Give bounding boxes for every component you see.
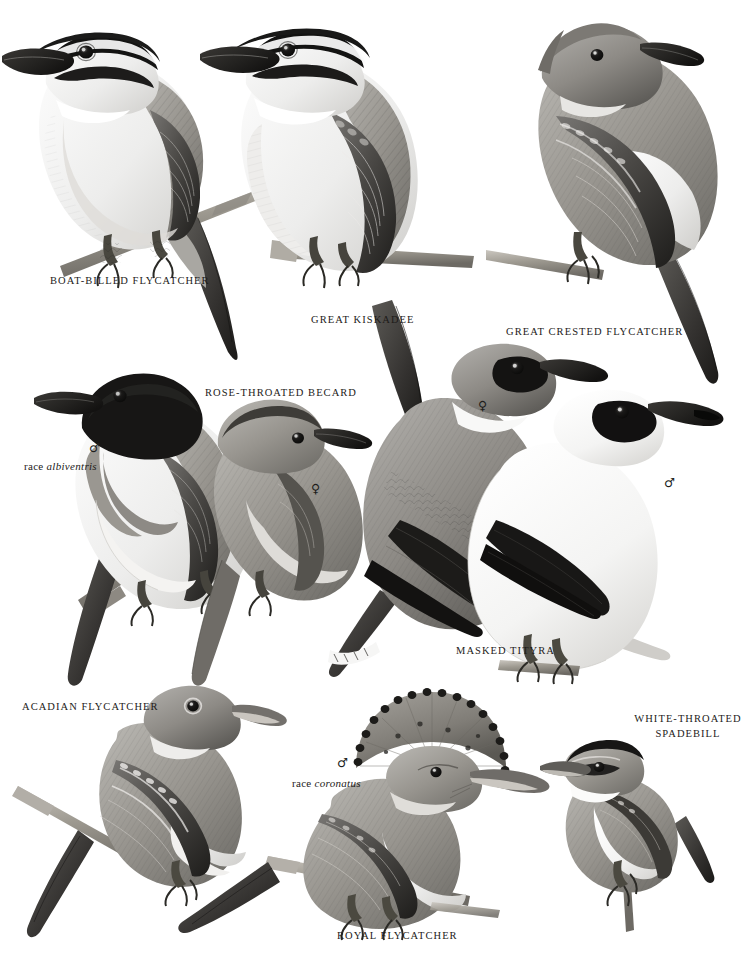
illustration-plate: BOAT-BILLED FLYCATCHER GREAT KISKADEE GR…	[0, 0, 755, 953]
sex-symbol-royal-flycatcher-male: ♂	[337, 757, 348, 769]
annotation-race-albiventris: race albiventris	[24, 460, 97, 472]
label-white-throated-spadebill-line1: WHITE-THROATED	[633, 712, 743, 727]
bird-white-throated-spadebill	[540, 740, 714, 932]
race-name-albiventris: albiventris	[47, 460, 97, 472]
race-prefix-albiventris: race	[24, 460, 47, 472]
label-rose-throated-becard: ROSE-THROATED BECARD	[205, 386, 357, 401]
race-prefix-coronatus: race	[292, 777, 315, 789]
label-royal-flycatcher: ROYAL FLYCATCHER	[337, 929, 458, 944]
label-white-throated-spadebill-line2: SPADEBILL	[633, 727, 743, 742]
label-boat-billed-flycatcher: BOAT-BILLED FLYCATCHER	[50, 274, 210, 289]
plate-artwork	[0, 0, 755, 953]
sex-symbol-becard-female: ♀	[311, 483, 320, 495]
label-white-throated-spadebill: WHITE-THROATED SPADEBILL	[633, 712, 743, 741]
sex-symbol-tityra-female: ♀	[478, 400, 487, 412]
bird-boat-billed-flycatcher	[2, 32, 262, 359]
bird-great-kiskadee	[200, 28, 474, 430]
label-great-kiskadee: GREAT KISKADEE	[311, 313, 414, 328]
sex-symbol-becard-male: ♂	[89, 442, 100, 454]
sex-symbol-tityra-male: ♂	[664, 477, 675, 489]
label-acadian-flycatcher: ACADIAN FLYCATCHER	[22, 700, 159, 715]
label-great-crested-flycatcher: GREAT CRESTED FLYCATCHER	[506, 325, 683, 340]
race-name-coronatus: coronatus	[315, 777, 361, 789]
annotation-race-coronatus: race coronatus	[292, 777, 361, 789]
label-masked-tityra: MASKED TITYRA	[456, 644, 555, 659]
